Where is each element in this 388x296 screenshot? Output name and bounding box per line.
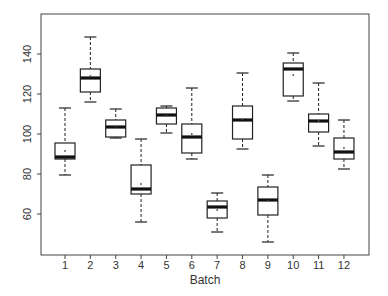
y-tick-label: 100	[21, 125, 33, 143]
mean-point	[343, 147, 345, 149]
x-tick-label: 12	[338, 259, 350, 271]
x-tick-label: 6	[189, 259, 195, 271]
y-tick-label: 60	[21, 208, 33, 220]
box-batch-1	[55, 108, 75, 175]
x-tick-label: 4	[138, 259, 144, 271]
y-tick-label: 120	[21, 85, 33, 103]
y-tick-label: 80	[21, 168, 33, 180]
x-tick-label: 7	[214, 259, 220, 271]
mean-point	[166, 115, 168, 117]
x-tick-label: 8	[239, 259, 245, 271]
plot-frame	[41, 14, 369, 255]
mean-point	[318, 120, 320, 122]
mean-point	[292, 74, 294, 76]
box-batch-5	[156, 106, 176, 133]
mean-point	[115, 125, 117, 127]
x-axis-title: Batch	[190, 273, 221, 287]
y-axis: 6080100120140	[21, 45, 41, 220]
iqr-box	[233, 106, 253, 139]
box-batch-12	[334, 120, 354, 169]
x-axis: 123456789101112	[62, 255, 350, 271]
box-batch-6	[182, 88, 202, 159]
mean-point	[267, 200, 269, 202]
x-tick-label: 11	[313, 259, 324, 271]
x-tick-label: 1	[62, 259, 68, 271]
mean-point	[242, 118, 244, 120]
box-batch-3	[106, 109, 126, 138]
x-tick-label: 9	[265, 259, 271, 271]
x-tick-label: 2	[87, 259, 93, 271]
mean-point	[89, 75, 91, 77]
mean-point	[191, 133, 193, 135]
boxplot-chart: 6080100120140 123456789101112 Batch	[0, 0, 388, 296]
iqr-box	[80, 69, 100, 92]
box-batch-8	[233, 73, 253, 149]
mean-point	[216, 209, 218, 211]
x-tick-label: 5	[163, 259, 169, 271]
box-batch-10	[283, 53, 303, 101]
x-tick-label: 10	[287, 259, 299, 271]
mean-point	[140, 183, 142, 185]
boxes	[55, 37, 354, 242]
box-batch-11	[309, 83, 329, 146]
y-tick-label: 140	[21, 45, 33, 63]
box-batch-9	[258, 175, 278, 242]
box-batch-4	[131, 139, 151, 222]
box-batch-7	[207, 193, 227, 232]
box-batch-2	[80, 37, 100, 102]
mean-point	[64, 150, 66, 152]
iqr-box	[309, 114, 329, 132]
x-tick-label: 3	[113, 259, 119, 271]
